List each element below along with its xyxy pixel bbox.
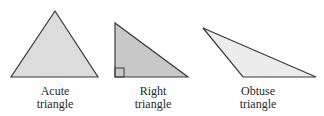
acute-label-line2: triangle: [15, 98, 95, 111]
acute-label: Acute triangle: [15, 85, 95, 111]
right-triangle: [115, 23, 188, 77]
acute-triangle: [11, 11, 98, 77]
obtuse-label: Obtuse triangle: [218, 85, 298, 111]
obtuse-label-line2: triangle: [218, 98, 298, 111]
right-label: Right triangle: [113, 85, 193, 111]
right-label-line2: triangle: [113, 98, 193, 111]
obtuse-triangle: [203, 28, 316, 77]
